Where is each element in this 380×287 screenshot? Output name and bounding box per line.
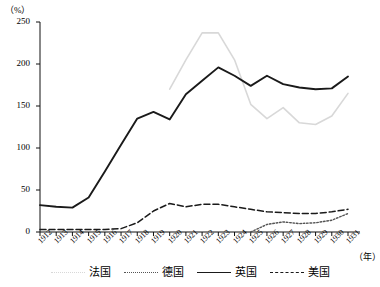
series-line-0 [170,33,348,125]
chart-legend: 法国德国英国美国 [0,262,380,282]
line-chart: （%） 050100150200250 19121913191419151916… [0,0,380,287]
legend-item-2[interactable]: 英国 [197,267,257,278]
y-axis-tick-label: 150 [4,100,30,110]
series-line-2 [40,67,348,207]
legend-item-0[interactable]: 法国 [51,267,111,278]
y-axis-tick-label: 100 [4,142,30,152]
series-line-1 [251,214,348,232]
y-axis-tick-label: 50 [4,184,30,194]
y-axis-tick-label: 0 [4,226,30,236]
y-axis-tick-label: 200 [4,58,30,68]
legend-item-3[interactable]: 美国 [270,267,330,278]
legend-item-1[interactable]: 德国 [124,267,184,278]
legend-label: 法国 [89,267,111,278]
legend-swatch-icon [197,268,231,276]
legend-label: 美国 [308,267,330,278]
legend-swatch-icon [124,268,158,276]
legend-swatch-icon [51,268,85,276]
series-line-3 [40,203,348,229]
legend-label: 德国 [162,267,184,278]
y-axis-tick-label: 250 [4,16,30,26]
legend-swatch-icon [270,268,304,276]
legend-label: 英国 [235,267,257,278]
